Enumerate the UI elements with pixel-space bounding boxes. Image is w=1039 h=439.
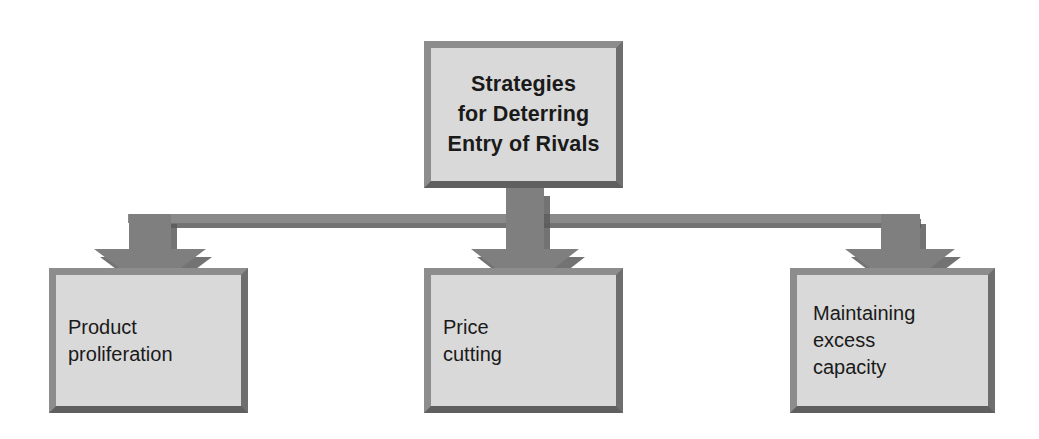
diagram-canvas: Strategies for Deterring Entry of Rivals…	[0, 0, 1039, 439]
node-label-maintaining-excess-capacity: Maintaining excess capacity	[797, 300, 915, 381]
root-node-strategies: Strategies for Deterring Entry of Rivals	[424, 41, 623, 188]
root-node-label: Strategies for Deterring Entry of Rivals	[431, 69, 616, 161]
node-maintaining-excess-capacity: Maintaining excess capacity	[790, 268, 995, 413]
node-label-product-proliferation: Product proliferation	[56, 314, 173, 368]
node-product-proliferation: Product proliferation	[49, 268, 248, 413]
node-price-cutting: Price cutting	[424, 268, 623, 413]
node-label-price-cutting: Price cutting	[431, 314, 502, 368]
